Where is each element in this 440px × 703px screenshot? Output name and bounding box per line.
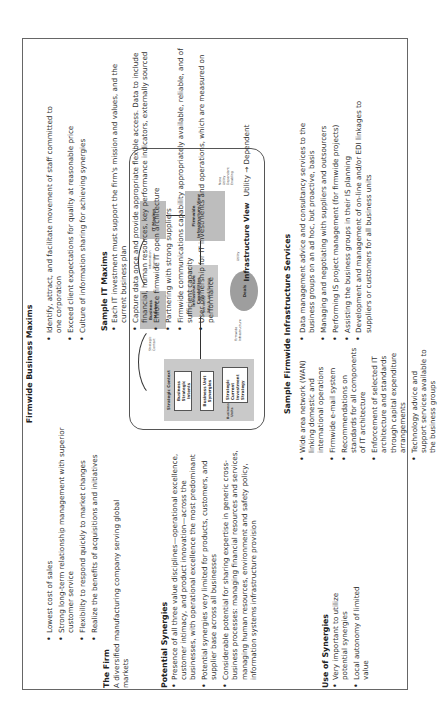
- list-item: Capture data once and provide appropriat…: [131, 46, 149, 331]
- business-unit-synergies-label: Business Unit Synergies: [202, 372, 212, 410]
- infrastructure-view-value: Utility → Dependent: [242, 125, 251, 197]
- list-item: Performing IS project management (for fi…: [331, 91, 340, 341]
- connector-label: Utility: [236, 237, 240, 261]
- list-item: Considerable potential for sharing exper…: [221, 445, 258, 688]
- list-item: User ownership for IT investments and op…: [197, 46, 215, 331]
- infra-services-right-list: Data management advice and consultancy s…: [298, 91, 375, 341]
- business-maxims-right-list: Identify, attract, and facilitate moveme…: [45, 106, 90, 341]
- list-item: Flexibility to respond quickly to market…: [78, 396, 87, 641]
- connector-curve: [138, 325, 180, 399]
- list-item: Technology advice and support services a…: [410, 346, 438, 461]
- list-item: Firmwide e-mail system: [328, 346, 337, 461]
- list-item: Potential synergies very limited for pro…: [200, 438, 218, 688]
- infra-view-options: None Utility Dependent Enabling: [218, 155, 234, 185]
- connector-label: Strategic Context: [148, 331, 156, 351]
- list-item: Development and management of on-line an…: [354, 91, 372, 341]
- list-item: Wide area network (WAN) linking domestic…: [298, 346, 326, 461]
- list-item: Local autonomy of limited value: [352, 578, 370, 688]
- infra-services-header: Sample Firmwide Infrastructure Services: [283, 38, 293, 690]
- business-maxims-left-list: Lowest cost of sales Strong long-term re…: [45, 396, 101, 641]
- infra-view-option: Enabling: [230, 155, 234, 185]
- connector-label: Firmwide Infrastructure: [234, 319, 242, 341]
- firm-heading: The Firm: [102, 478, 112, 688]
- infra-services-heading: Sample Firmwide Infrastructure Services: [283, 38, 293, 610]
- list-item: Realize the benefits of acquisitions and…: [90, 396, 99, 641]
- list-item: Identify, attract, and facilitate moveme…: [45, 106, 63, 341]
- list-item: Assisting the business groups in their I…: [343, 91, 352, 341]
- list-item: Enforce firmwide IT open architecture: [152, 46, 161, 331]
- list-item: Partnering with strong suppliers: [164, 46, 173, 331]
- list-item: Exceed client expectations for quality a…: [66, 106, 75, 341]
- potential-synergies-list: Presence of all three value disciplines—…: [170, 438, 258, 688]
- list-item: Presence of all three value disciplines—…: [170, 438, 198, 688]
- strategy-box: Strategic Current Investment Strategy: [222, 367, 248, 403]
- infrastructure-view-line: Infrastructure View Utility → Dependent: [242, 113, 251, 293]
- potential-synergies-heading: Potential Synergies: [160, 438, 170, 688]
- list-item: Managing and negotiating with suppliers …: [319, 91, 328, 341]
- list-item: Recommendations on standards for all com…: [340, 346, 368, 461]
- list-item: Data management advice and consultancy s…: [298, 91, 316, 341]
- potential-synergies-section: Potential Synergies Presence of all thre…: [160, 438, 261, 688]
- list-item: Lowest cost of sales: [45, 396, 54, 641]
- infrastructure-view-label: Infrastructure View: [242, 203, 251, 282]
- list-item: Very important to utilize potential syne…: [331, 578, 349, 688]
- business-units-label: Business Units: [226, 405, 234, 419]
- firm-description: A diversified manufacturing company serv…: [112, 478, 130, 688]
- it-maxims-heading: Sample IT Maxims: [100, 46, 110, 331]
- list-item: Culture of information sharing for achie…: [78, 106, 87, 341]
- infra-services-left-list: Wide area network (WAN) linking domestic…: [298, 346, 440, 461]
- list-item: Firmwide communications capability appro…: [176, 46, 194, 331]
- use-of-synergies-heading: Use of Synergies: [321, 578, 331, 688]
- it-maxims-section: Sample IT Maxims Each IT investment must…: [100, 46, 218, 331]
- business-maxims-header: Firmwide Business Maxims: [25, 38, 35, 690]
- use-of-synergies-section: Use of Synergies Very important to utili…: [321, 578, 373, 688]
- it-maxims-list: Each IT investment must support the firm…: [110, 46, 215, 331]
- business-maxims-heading: Firmwide Business Maxims: [25, 38, 35, 690]
- list-item: Each IT investment must support the firm…: [110, 46, 128, 331]
- list-item: Enforcement of selected IT architecture …: [370, 346, 407, 461]
- use-of-synergies-list: Very important to utilize potential syne…: [331, 578, 370, 688]
- business-unit-synergies-box: Business Unit Synergies: [200, 371, 214, 411]
- list-item: Strong long-term relationship management…: [57, 396, 75, 641]
- strategy-bullet: Strategy: [240, 370, 245, 400]
- firm-section: The Firm A diversified manufacturing com…: [102, 478, 130, 688]
